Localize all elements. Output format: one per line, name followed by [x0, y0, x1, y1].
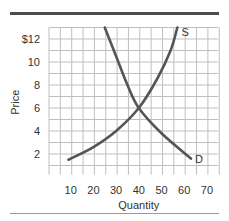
x-tick-label: 20: [87, 184, 99, 196]
y-tick-label: 10: [28, 56, 40, 68]
x-tick-label: 70: [201, 184, 213, 196]
y-tick-label: 6: [34, 102, 40, 114]
y-tick-label: $12: [22, 33, 40, 45]
x-tick-label: 60: [178, 184, 190, 196]
curve-s: [68, 28, 177, 160]
x-tick-label: 50: [155, 184, 167, 196]
x-tick-label: 10: [65, 184, 77, 196]
y-axis-label: Price: [9, 90, 21, 115]
y-tick-label: 4: [34, 125, 40, 137]
curve-label-d: D: [195, 153, 203, 165]
x-tick-label: 30: [110, 184, 122, 196]
supply-demand-chart: 246810$1210203040506070QuantityPriceSD: [0, 0, 229, 221]
x-axis-label: Quantity: [118, 199, 159, 211]
y-tick-label: 8: [34, 79, 40, 91]
x-tick-label: 40: [133, 184, 145, 196]
curve-label-s: S: [181, 26, 188, 38]
y-tick-label: 2: [34, 148, 40, 160]
